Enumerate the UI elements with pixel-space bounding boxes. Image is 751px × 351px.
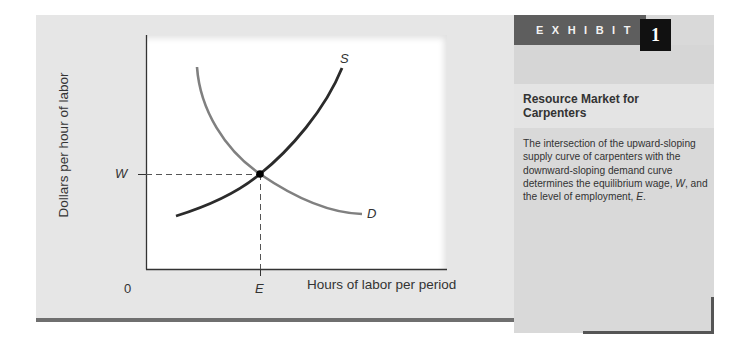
x-axis-label: Hours of labor per period <box>307 277 456 292</box>
equilibrium-point <box>256 170 264 178</box>
exhibit-number: 1 <box>640 19 671 51</box>
e-tick-label: E <box>255 281 264 296</box>
exhibit-sidebar: EXHIBIT 1 Resource Market for Carpenters… <box>514 15 714 333</box>
supply-label: S <box>340 51 349 66</box>
sidebar-rule-right <box>711 297 714 334</box>
exhibit-label: EXHIBIT <box>514 15 646 45</box>
demand-label: D <box>367 206 376 221</box>
description-text: The intersection of the upward-sloping s… <box>523 138 696 189</box>
description-text: . <box>643 191 646 202</box>
exhibit-description: The intersection of the upward-sloping s… <box>523 137 708 203</box>
y-axis-label: Dollars per hour of labor <box>56 73 71 218</box>
description-w: W <box>675 178 685 189</box>
exhibit-title: Resource Market for Carpenters <box>523 92 703 120</box>
demand-curve <box>197 67 362 214</box>
origin-label: 0 <box>124 281 131 296</box>
w-tick-label: W <box>115 166 127 181</box>
sidebar-band <box>514 45 714 84</box>
sidebar-rule-bottom <box>583 331 714 334</box>
